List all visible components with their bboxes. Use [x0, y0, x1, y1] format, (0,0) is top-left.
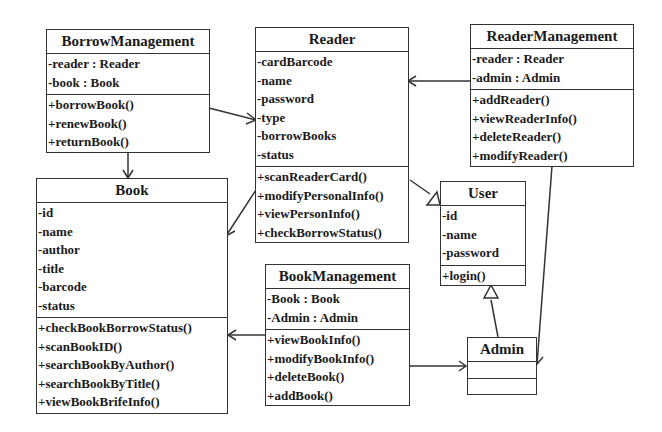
generalization-reader-user — [410, 180, 430, 194]
method: +scanReaderCard() — [257, 168, 408, 187]
class-name: BorrowManagement — [47, 30, 209, 54]
attributes-section: -reader : Reader -admin : Admin — [471, 49, 633, 90]
methods-section: +addReader() +viewReaderInfo() +deleteRe… — [471, 90, 633, 167]
method: +checkBookBorrowStatus() — [38, 319, 227, 338]
class-name: Reader — [256, 28, 408, 52]
attribute: -admin : Admin — [472, 69, 633, 88]
attributes-section — [468, 362, 536, 379]
method: +addBook() — [267, 387, 409, 406]
attribute: -password — [257, 90, 408, 109]
class-user[interactable]: User -id -name -password +login() — [440, 181, 526, 286]
attribute: -type — [257, 109, 408, 128]
attributes-section: -reader : Reader -book : Book — [47, 54, 209, 95]
methods-section: +scanReaderCard() +modifyPersonalInfo() … — [256, 167, 408, 244]
class-reader-management[interactable]: ReaderManagement -reader : Reader -admin… — [470, 24, 634, 167]
generalization-admin-user — [491, 300, 498, 337]
attribute: -name — [257, 72, 408, 91]
methods-section: +borrowBook() +renewBook() +returnBook() — [47, 95, 209, 154]
method: +checkBorrowStatus() — [257, 224, 408, 243]
method: +returnBook() — [48, 133, 209, 152]
class-name: BookManagement — [266, 265, 409, 289]
attributes-section: -id -name -author -title -barcode -statu… — [37, 203, 227, 318]
attributes-section: -Book : Book -Admin : Admin — [266, 289, 409, 330]
attributes-section: -cardBarcode -name -password -type -borr… — [256, 52, 408, 167]
assoc-reader-book — [226, 190, 256, 236]
attribute: -status — [257, 146, 408, 165]
attribute: -id — [442, 207, 525, 226]
method: +addReader() — [472, 91, 633, 110]
class-book-management[interactable]: BookManagement -Book : Book -Admin : Adm… — [265, 264, 410, 406]
class-borrow-management[interactable]: BorrowManagement -reader : Reader -book … — [46, 29, 210, 153]
attribute: -id — [38, 204, 227, 223]
method: +renewBook() — [48, 115, 209, 134]
attribute: -reader : Reader — [472, 50, 633, 69]
method: +searchBookByTitle() — [38, 375, 227, 394]
class-reader[interactable]: Reader -cardBarcode -name -password -typ… — [255, 27, 409, 243]
attribute: -name — [442, 226, 525, 245]
method: +scanBookID() — [38, 338, 227, 357]
attribute: -author — [38, 241, 227, 260]
attributes-section: -id -name -password — [441, 206, 525, 266]
method: +viewBookBrifeInfo() — [38, 393, 227, 412]
method: +deleteReader() — [472, 128, 633, 147]
class-book[interactable]: Book -id -name -author -title -barcode -… — [36, 178, 228, 414]
method: +viewBookInfo() — [267, 331, 409, 350]
methods-section: +checkBookBorrowStatus() +scanBookID() +… — [37, 318, 227, 414]
methods-section — [468, 379, 536, 396]
method: +modifyReader() — [472, 147, 633, 166]
method: +deleteBook() — [267, 368, 409, 387]
attribute: -reader : Reader — [48, 55, 209, 74]
method: +borrowBook() — [48, 96, 209, 115]
class-name: User — [441, 182, 525, 206]
methods-section: +viewBookInfo() +modifyBookInfo() +delet… — [266, 330, 409, 407]
method: +modifyBookInfo() — [267, 350, 409, 369]
attribute: -book : Book — [48, 74, 209, 93]
attribute: -name — [38, 223, 227, 242]
class-name: ReaderManagement — [471, 25, 633, 49]
attribute: -Book : Book — [267, 290, 409, 309]
attribute: -cardBarcode — [257, 53, 408, 72]
method: +login() — [442, 267, 525, 286]
attribute: -title — [38, 260, 227, 279]
method: +modifyPersonalInfo() — [257, 187, 408, 206]
method: +viewReaderInfo() — [472, 110, 633, 129]
method: +searchBookByAuthor() — [38, 356, 227, 375]
assoc-readermgmt-admin — [537, 166, 552, 364]
attribute: -status — [38, 297, 227, 316]
attribute: -barcode — [38, 278, 227, 297]
attribute: -Admin : Admin — [267, 309, 409, 328]
attribute: -password — [442, 244, 525, 263]
class-admin[interactable]: Admin — [467, 337, 537, 395]
methods-section: +login() — [441, 266, 525, 288]
class-name: Book — [37, 179, 227, 203]
method: +viewPersonInfo() — [257, 205, 408, 224]
class-name: Admin — [468, 338, 536, 362]
attribute: -borrowBooks — [257, 127, 408, 146]
